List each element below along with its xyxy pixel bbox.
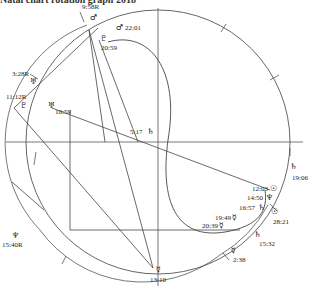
planet-time-label: 11:12R	[6, 93, 27, 101]
inner-rectangle	[70, 110, 240, 230]
saturn-icon: ♄	[254, 230, 261, 239]
neptune-icon: ♆	[12, 231, 19, 240]
planet-time-label: 2:38	[233, 256, 246, 264]
saturn-icon: ♄	[258, 203, 265, 212]
mercury-icon: ☿	[231, 246, 236, 255]
pluto-icon: ♇	[100, 34, 107, 43]
planet-time-label: 20:59	[101, 44, 117, 52]
planet-time-label: 22:01	[125, 24, 141, 32]
aspect-line	[99, 40, 138, 142]
planet-time-label: 10:59	[55, 108, 71, 116]
planet-time-label: 19:06	[292, 174, 308, 182]
mars-icon: ♂	[90, 13, 97, 22]
mars-icon: ♂	[116, 23, 123, 32]
planet-time-label: 20:39	[202, 222, 218, 230]
planet-time-label: 28:21	[273, 218, 289, 226]
planet-time-label: 15:40R	[2, 241, 23, 249]
mercury-icon: ☿	[156, 265, 161, 274]
uranus-icon: ♅	[30, 77, 37, 86]
tick-mark	[62, 256, 66, 264]
planet-time-label: 9:58R	[82, 3, 99, 11]
neptune-icon: ♆	[266, 193, 273, 202]
mercury-icon: ☿	[232, 213, 237, 222]
rotation-chart: 5:17 ♄ 9:58R♂22:01♂20:59♇3:28R♅11:12R♇10…	[0, 0, 311, 286]
sun-icon: ☉	[271, 207, 278, 216]
planet-time-label: 16:57	[239, 204, 255, 212]
center-time-label: 5:17	[130, 128, 143, 136]
tick-mark	[80, 12, 84, 22]
sun-icon: ☉	[270, 184, 277, 193]
pluto-icon: ♇	[20, 101, 27, 110]
planet-time-label: 12:03	[252, 185, 268, 193]
aspect-line	[52, 108, 270, 190]
saturn-icon: ♄	[290, 162, 297, 171]
planet-time-label: 14:50	[247, 194, 263, 202]
tick-mark	[34, 152, 36, 165]
planet-time-label: 15:32	[259, 240, 275, 248]
uranus-icon: ♅	[48, 101, 55, 110]
planet-time-label: 13:10	[150, 276, 166, 284]
saturn-icon: ♄	[147, 127, 154, 136]
mercury-icon: ☿	[219, 221, 224, 230]
aspect-line	[14, 28, 98, 108]
aspect-line	[89, 30, 153, 268]
planet-time-label: 3:28R	[12, 70, 29, 78]
inner-ring-arc	[5, 25, 268, 282]
